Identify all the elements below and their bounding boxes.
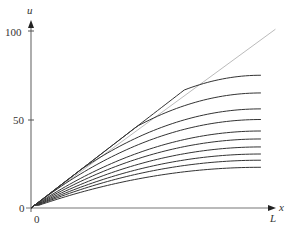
series-line-6 xyxy=(31,139,261,208)
y-tick-label-100: 100 xyxy=(5,26,22,38)
x-axis-arrow-icon xyxy=(268,205,276,211)
x-axis-label: x xyxy=(278,201,284,213)
plot-area xyxy=(31,29,275,208)
y-tick-label-0: 0 xyxy=(19,202,25,214)
y-axis-arrow-icon xyxy=(28,20,34,28)
y-axis-label: u xyxy=(27,4,33,16)
y-tick-label-50: 50 xyxy=(13,114,25,126)
series-line-10 xyxy=(31,167,261,208)
x-tick-label-L: L xyxy=(269,212,276,224)
x-tick-label-0: 0 xyxy=(34,213,40,225)
chart: 100 50 0 0 L u x xyxy=(0,0,291,236)
